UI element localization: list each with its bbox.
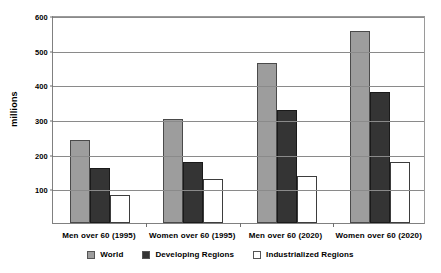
x-tick-mark (146, 223, 147, 227)
legend-swatch-icon (142, 251, 150, 259)
gridline (53, 17, 424, 18)
x-axis-labels: Men over 60 (1995)Women over 60 (1995)Me… (52, 231, 425, 245)
bar (370, 92, 390, 223)
plot-area: 100200300400500600 (52, 16, 425, 224)
legend-label: World (100, 250, 123, 259)
y-tick-label: 200 (35, 151, 48, 160)
bar (163, 119, 183, 223)
bar (350, 31, 370, 223)
gridline (53, 121, 424, 122)
y-tick-mark (50, 86, 53, 87)
bar-chart: millions 100200300400500600 Men over 60 … (0, 0, 441, 273)
gridline (53, 52, 424, 53)
x-tick-mark (240, 223, 241, 227)
y-tick-label: 500 (35, 47, 48, 56)
y-tick-label: 100 (35, 186, 48, 195)
bar (390, 162, 410, 223)
x-tick-mark (333, 223, 334, 227)
bar-group (333, 17, 426, 223)
bar (183, 162, 203, 223)
legend-item[interactable]: World (87, 250, 123, 259)
y-tick-mark (50, 17, 53, 18)
gridline (53, 86, 424, 87)
legend: WorldDeveloping RegionsIndustrialized Re… (0, 250, 441, 259)
legend-label: Industrialized Regions (266, 250, 354, 259)
bar-group (146, 17, 239, 223)
bar-group (240, 17, 333, 223)
legend-item[interactable]: Industrialized Regions (253, 250, 354, 259)
legend-item[interactable]: Developing Regions (142, 250, 234, 259)
bar (203, 179, 223, 223)
legend-label: Developing Regions (155, 250, 234, 259)
bar (90, 168, 110, 223)
y-tick-label: 600 (35, 13, 48, 22)
y-tick-mark (50, 155, 53, 156)
y-tick-mark (50, 51, 53, 52)
y-tick-mark (50, 121, 53, 122)
bar (277, 110, 297, 223)
y-axis-title: millions (9, 79, 19, 139)
bar-group (53, 17, 146, 223)
legend-swatch-icon (87, 251, 95, 259)
bars-layer (53, 17, 424, 223)
y-tick-mark (50, 190, 53, 191)
legend-swatch-icon (253, 251, 261, 259)
bar (297, 176, 317, 223)
bar (110, 195, 130, 223)
gridline (53, 190, 424, 191)
gridline (53, 156, 424, 157)
y-tick-label: 300 (35, 117, 48, 126)
bar (70, 140, 90, 223)
y-tick-label: 400 (35, 82, 48, 91)
x-axis-label: Women over 60 (2020) (319, 231, 439, 240)
